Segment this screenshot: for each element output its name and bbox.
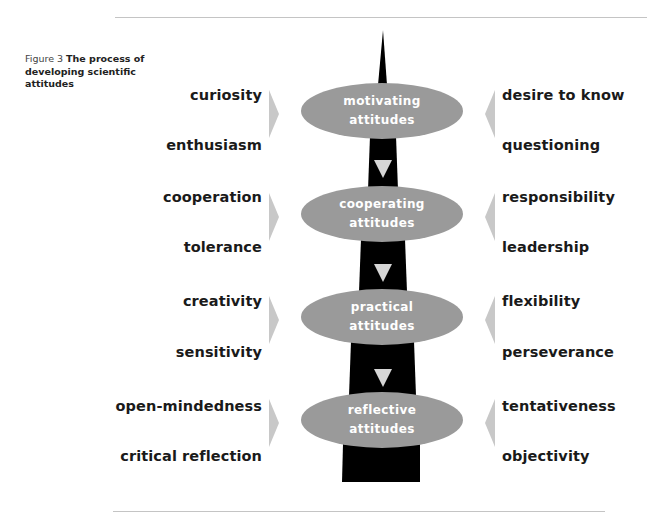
right-arrow-icon (269, 399, 279, 447)
stage-label: reflective attitudes (301, 401, 463, 439)
stage-label-line1: cooperating (301, 195, 463, 214)
stage-label-line1: practical (301, 298, 463, 317)
left-arrow-icon (485, 296, 495, 344)
stage-label-line2: attitudes (301, 317, 463, 336)
attitude-word: tolerance (184, 239, 262, 255)
stage-label: practical attitudes (301, 298, 463, 336)
attitude-word: questioning (502, 137, 600, 153)
spine-segment-3 (349, 341, 416, 396)
attitude-word: objectivity (502, 448, 590, 464)
stage-label-line2: attitudes (301, 214, 463, 233)
attitude-word: cooperation (163, 189, 262, 205)
attitude-word: tentativeness (502, 398, 616, 414)
left-arrow-icon (485, 399, 495, 447)
attitude-word: flexibility (502, 293, 580, 309)
left-arrow-icon (485, 90, 495, 138)
stage-label: cooperating attitudes (301, 195, 463, 233)
right-arrow-icon (269, 90, 279, 138)
attitude-word: leadership (502, 239, 589, 255)
attitude-word: open-mindedness (116, 398, 262, 414)
attitude-word: creativity (183, 293, 262, 309)
attitude-word: curiosity (190, 87, 262, 103)
stage-label-line1: reflective (301, 401, 463, 420)
attitude-word: critical reflection (120, 448, 262, 464)
attitude-word: desire to know (502, 87, 625, 103)
attitude-word: enthusiasm (166, 137, 262, 153)
spine-segment-4 (342, 444, 420, 482)
right-arrow-icon (269, 296, 279, 344)
central-spine (378, 30, 387, 85)
stage-label: motivating attitudes (301, 92, 463, 130)
right-arrow-icon (269, 193, 279, 241)
stage-label-line2: attitudes (301, 420, 463, 439)
attitude-word: perseverance (502, 344, 614, 360)
attitude-word: sensitivity (176, 344, 262, 360)
attitude-word: responsibility (502, 189, 615, 205)
left-arrow-icon (485, 193, 495, 241)
stage-label-line2: attitudes (301, 111, 463, 130)
stage-label-line1: motivating (301, 92, 463, 111)
